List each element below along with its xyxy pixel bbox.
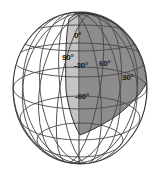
angle-label-60: 60°	[99, 60, 111, 68]
angle-label-90: 90°	[62, 54, 74, 62]
angle-label-0: 0°	[74, 32, 81, 40]
sphere-diagram-figure: 0° 90° -30° 60° 30° -60°	[0, 0, 160, 179]
sphere-illustration	[0, 0, 160, 179]
angle-label-minus-30: -30°	[74, 62, 88, 70]
angle-label-30: 30°	[122, 74, 134, 82]
angle-label-minus-60: -60°	[75, 93, 89, 101]
